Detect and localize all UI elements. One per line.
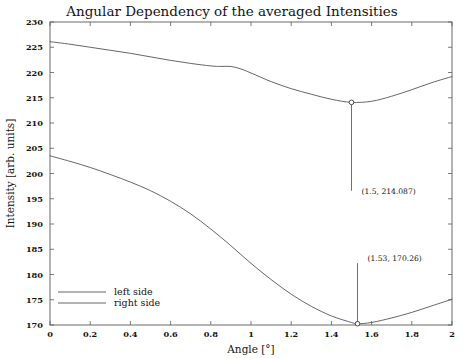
annotation-label-left-side-minimum: (1.5, 214.087) — [362, 187, 416, 196]
y-tick-label: 230 — [26, 17, 43, 27]
y-tick-label: 190 — [26, 219, 43, 229]
annotation-marker-right-side-minimum — [355, 321, 360, 326]
y-tick-label: 195 — [26, 194, 43, 204]
y-tick-label: 210 — [26, 118, 43, 128]
legend-label-1: right side — [114, 297, 161, 308]
x-tick-label: 0.6 — [163, 329, 178, 339]
x-tick-label: 0.4 — [123, 329, 138, 339]
x-tick-label: 1.2 — [284, 329, 298, 339]
y-tick-label: 175 — [26, 295, 43, 305]
x-tick-label: 2 — [449, 329, 455, 339]
y-tick-label: 225 — [26, 42, 43, 52]
x-tick-label: 0 — [47, 329, 53, 339]
y-tick-label: 205 — [26, 143, 43, 153]
chart-figure: Angular Dependency of the averaged Inten… — [0, 0, 465, 358]
annotation-marker-left-side-minimum — [349, 100, 354, 105]
legend-label-0: left side — [114, 286, 153, 297]
y-tick-label: 220 — [26, 68, 43, 78]
x-tick-label: 0.2 — [83, 329, 97, 339]
chart-title: Angular Dependency of the averaged Inten… — [65, 3, 397, 19]
x-tick-label: 1.4 — [324, 329, 339, 339]
y-tick-label: 200 — [26, 169, 43, 179]
x-axis-title: Angle [°] — [226, 343, 274, 355]
x-tick-label: 0.8 — [204, 329, 219, 339]
x-tick-label: 1 — [248, 329, 254, 339]
angular-dependency-line-chart: Angular Dependency of the averaged Inten… — [0, 0, 465, 358]
y-tick-label: 185 — [26, 244, 43, 254]
y-tick-label: 170 — [26, 320, 43, 330]
chart-background — [0, 0, 465, 358]
y-tick-label: 180 — [26, 270, 43, 280]
y-axis-title: Intensity [arb. units] — [4, 119, 16, 229]
x-tick-label: 1.6 — [364, 329, 379, 339]
annotation-label-right-side-minimum: (1.53, 170.26) — [368, 254, 422, 263]
y-tick-label: 215 — [26, 93, 43, 103]
x-tick-label: 1.8 — [405, 329, 420, 339]
